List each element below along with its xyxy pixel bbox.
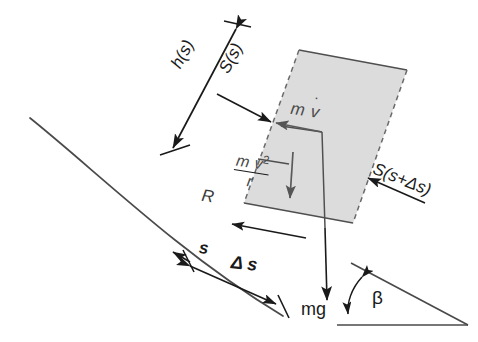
weight-force-arrow — [325, 228, 327, 300]
section-force-left-arrow — [217, 94, 271, 122]
height-dimension-arrow — [160, 21, 251, 155]
incline-line — [351, 263, 468, 325]
tangential-force-mass-symbol: m — [289, 99, 306, 120]
path-curve — [30, 118, 283, 316]
height-tick-top — [224, 21, 251, 27]
slope-triangle — [337, 263, 468, 325]
slope-angle-arc — [348, 277, 362, 314]
centripetal-force-label: mv2 r — [230, 150, 272, 193]
arc-increment-label: Δ s — [230, 253, 258, 274]
mass-element-body — [244, 50, 407, 228]
tangential-force-label: mv˙ — [290, 100, 321, 121]
arc-position-label: s — [198, 239, 209, 257]
weight-label: mg — [301, 300, 326, 318]
reaction-force-arrow — [232, 224, 306, 238]
reaction-label: R — [201, 187, 216, 206]
height-tick-bottom — [160, 145, 190, 155]
diagram-canvas: h(s) S(s) S(s+Δs) mv˙ mv2 r R s Δ s mg β — [0, 0, 478, 342]
slope-angle-label: β — [372, 288, 383, 307]
